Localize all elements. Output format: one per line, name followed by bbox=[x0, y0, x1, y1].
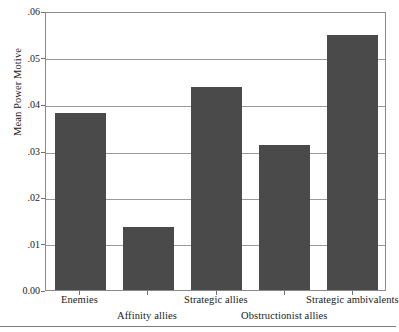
x-axis-tick-label: Enemies bbox=[61, 294, 98, 306]
x-axis-tick-label: Affinity allies bbox=[117, 310, 177, 322]
x-axis-tick-label: Strategic ambivalents bbox=[306, 294, 399, 306]
x-axis-tick-label: Obstructionist allies bbox=[241, 310, 327, 322]
bottom-rule bbox=[0, 326, 396, 327]
x-axis-tick-label: Strategic allies bbox=[184, 294, 248, 306]
x-axis-tick-mark bbox=[284, 291, 285, 295]
x-axis-tick-mark bbox=[147, 291, 148, 295]
